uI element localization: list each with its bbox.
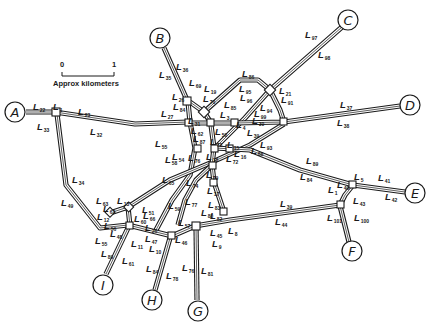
link-label-letter: L xyxy=(176,61,182,72)
link-label-letter: L xyxy=(260,139,266,150)
link-label-letter: L xyxy=(228,225,234,236)
link-label-letter: L xyxy=(212,238,218,249)
terminal-c-label: C xyxy=(343,13,353,28)
link-label-letter: L xyxy=(146,263,152,274)
link-label-subscript: 43 xyxy=(360,201,366,207)
link-label-letter: L xyxy=(173,101,179,112)
link-label-letter: L xyxy=(300,171,306,182)
terminal-g-label: G xyxy=(193,304,203,319)
terminal-a-label: A xyxy=(10,105,20,120)
junction-node xyxy=(337,201,344,208)
link-label-letter: L xyxy=(165,154,171,165)
terminal-c[interactable]: C xyxy=(338,10,358,30)
link-label-letter: L xyxy=(281,94,287,105)
link-label-letter: L xyxy=(201,265,207,276)
link-label-subscript: 40 xyxy=(344,185,350,191)
link-label: L34 xyxy=(72,174,85,186)
junction-node xyxy=(220,208,227,215)
road-network-diagram: 0 1 Approx kilometers xyxy=(0,0,433,327)
link-label: L85 xyxy=(224,99,237,111)
link-label-subscript: 17 xyxy=(214,191,220,197)
link-label-letter: L xyxy=(166,270,172,281)
link-label-subscript: 39 xyxy=(254,133,260,139)
link-label-subscript: 22 xyxy=(40,107,46,113)
terminal-i[interactable]: I xyxy=(93,275,113,295)
link-label-letter: L xyxy=(207,185,213,196)
link-label: L5 xyxy=(354,171,364,183)
link-label-letter: L xyxy=(159,69,165,80)
link-label-letter: L xyxy=(206,169,212,180)
link-label-letter: L xyxy=(117,195,123,206)
link-label-subscript: 5 xyxy=(361,177,364,183)
link-label-subscript: 62 xyxy=(110,209,116,215)
link-label-subscript: 38 xyxy=(344,123,350,129)
link-label-subscript: 57 xyxy=(185,223,191,229)
link-label-subscript: 18 xyxy=(213,157,219,163)
link-label-subscript: 58 xyxy=(172,160,178,166)
terminal-a[interactable]: A xyxy=(5,102,25,122)
terminal-h-label: H xyxy=(147,293,157,308)
link-label-letter: L xyxy=(234,148,240,159)
link-label: L27 xyxy=(161,108,174,120)
terminal-g[interactable]: G xyxy=(188,301,208,321)
link-label-letter: L xyxy=(378,172,384,183)
link-label-subscript: 55 xyxy=(102,241,108,247)
link-label-subscript: 89 xyxy=(313,161,319,167)
link-label-letter: L xyxy=(215,126,221,137)
link-label-letter: L xyxy=(210,136,216,147)
link-label-letter: L xyxy=(340,99,346,110)
scale-caption: Approx kilometers xyxy=(53,79,119,88)
junction-node xyxy=(280,118,287,125)
link-label-subscript: 51 xyxy=(149,210,155,216)
link-label-letter: L xyxy=(206,151,212,162)
link-label-subscript: 99 xyxy=(261,114,267,120)
terminal-f-label: F xyxy=(348,244,356,259)
link-label-letter: L xyxy=(327,212,333,223)
link-label-subscript: 76 xyxy=(195,158,201,164)
link-label: L55 xyxy=(155,138,168,150)
road-f xyxy=(340,206,349,242)
link-label-letter: L xyxy=(208,199,214,210)
link-label-letter: L xyxy=(210,210,216,221)
link-label-subscript: 16 xyxy=(241,154,247,160)
road-g xyxy=(196,226,197,300)
terminal-h[interactable]: H xyxy=(142,290,162,310)
link-label: L86 xyxy=(242,68,255,80)
link-label-letter: L xyxy=(185,196,191,207)
link-label-letter: L xyxy=(97,211,103,222)
link-label: L22 xyxy=(33,101,46,113)
terminal-f[interactable]: F xyxy=(342,241,362,261)
link-label: L93 xyxy=(260,139,273,151)
link-label-letter: L xyxy=(175,234,181,245)
link-label-subscript: 76 xyxy=(189,268,195,274)
terminal-d-label: D xyxy=(405,98,415,113)
link-label-letter: L xyxy=(186,177,192,188)
link-label: L65 xyxy=(162,174,175,186)
link-label-letter: L xyxy=(193,133,199,144)
link-label-letter: L xyxy=(90,126,96,137)
link-label-letter: L xyxy=(96,195,102,206)
link-label-subscript: 81 xyxy=(208,271,214,277)
link-label-letter: L xyxy=(134,213,140,224)
link-label-subscript: 37 xyxy=(347,105,353,111)
link-label-letter: L xyxy=(168,200,174,211)
scale-line xyxy=(62,72,114,76)
link-label: L94 xyxy=(260,102,273,114)
link-label-letter: L xyxy=(337,179,343,190)
link-label-subscript: 46 xyxy=(182,240,188,246)
link-label-letter: L xyxy=(142,204,148,215)
link-label-subscript: 26 xyxy=(152,228,158,234)
link-label: L62 xyxy=(103,203,116,215)
link-label-subscript: 59 xyxy=(175,206,181,212)
link-label-subscript: 77 xyxy=(192,202,198,208)
junction-node xyxy=(209,162,216,169)
link-label-letter: L xyxy=(122,255,128,266)
link-label-subscript: 10 xyxy=(156,249,162,255)
link-label: L81 xyxy=(201,265,214,277)
terminal-d[interactable]: D xyxy=(400,95,420,115)
terminal-b[interactable]: B xyxy=(150,28,170,48)
link-label: L38 xyxy=(337,117,350,129)
link-label: L43 xyxy=(353,195,366,207)
terminal-e[interactable]: E xyxy=(405,183,425,203)
link-label-letter: L xyxy=(189,77,195,88)
